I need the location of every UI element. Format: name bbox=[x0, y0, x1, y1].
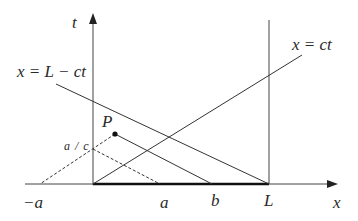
tick-label-minus-a: −a bbox=[23, 194, 43, 211]
characteristic-x-equals-L-minus-ct bbox=[56, 84, 269, 184]
label-x-equals-L-minus-ct: x = L − ct bbox=[17, 63, 86, 80]
t-axis-arrow-icon bbox=[89, 13, 97, 24]
characteristic-x-equals-ct bbox=[93, 55, 302, 184]
label-point-P: P bbox=[102, 113, 112, 130]
tick-label-b: b bbox=[211, 192, 220, 209]
x-axis-label: x bbox=[333, 194, 341, 211]
tick-label-a: a bbox=[160, 194, 169, 211]
tick-label-L: L bbox=[264, 192, 273, 209]
characteristics-diagram bbox=[0, 0, 358, 221]
dashed-a-over-c-to-a bbox=[93, 149, 160, 184]
t-axis-label: t bbox=[72, 14, 77, 31]
label-a-over-c: a / c bbox=[64, 140, 90, 152]
label-x-equals-ct: x = ct bbox=[292, 36, 332, 53]
x-axis-arrow-icon bbox=[327, 180, 338, 188]
point-P-marker bbox=[112, 131, 117, 136]
characteristic-P-to-b bbox=[115, 134, 212, 184]
